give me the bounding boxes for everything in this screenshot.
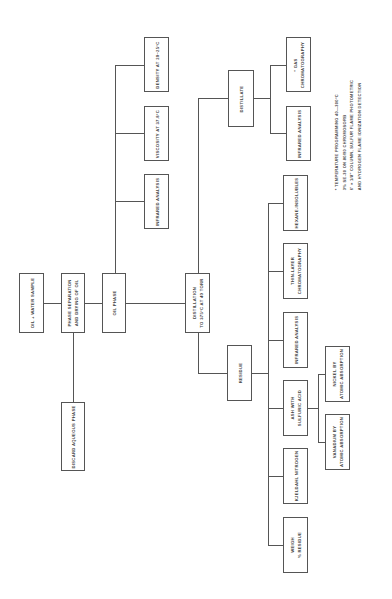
connector <box>115 201 144 202</box>
node-label: * GAS <box>292 41 299 87</box>
node-label: AND DRYING OF OIL <box>73 279 80 326</box>
footnote-line: AND HYDROGEN FLAME IONIZATION DETECTION <box>356 80 364 190</box>
connector <box>85 303 102 304</box>
node-label: NICKEL BY <box>331 349 338 399</box>
node-label: DENSITY AT 20–25°C <box>153 41 160 88</box>
connector <box>268 408 283 409</box>
footnote-line: 3% SE-30 ON 80/90 CHROMOSORB <box>340 80 348 190</box>
connector <box>268 203 283 204</box>
connector <box>268 203 269 545</box>
node-label: PHASE SEPARATION <box>66 279 73 326</box>
node-residue: RESIDUE <box>227 345 252 401</box>
node-label: ATOMIC ABSORPTION <box>338 349 345 399</box>
node-label: INFRARED ANALYSIS <box>153 177 160 226</box>
connector <box>73 333 74 402</box>
connector <box>198 98 228 99</box>
node-label: DISTILLATION <box>191 278 198 327</box>
node-label: RESIDUE <box>236 363 243 384</box>
node-kjeldahl-nitrogen: KJELDAHL NITROGEN <box>283 448 308 504</box>
connector <box>318 374 325 375</box>
node-label: ASH WITH <box>289 390 296 426</box>
node-ash-sulfuric-acid: ASH WITHSULFURIC ACID <box>283 380 308 436</box>
connector <box>268 271 283 272</box>
node-label: OIL PHASE <box>111 290 118 315</box>
connector <box>270 133 286 134</box>
connector <box>318 442 325 443</box>
node-distillate: DISTILLATE <box>228 70 254 127</box>
connector <box>270 65 286 66</box>
connector <box>308 408 318 409</box>
node-label: DISCARD AQUEOUS PHASE <box>70 405 77 468</box>
connector <box>115 65 144 66</box>
node-distillate-infrared-analysis: INFRARED ANALYSIS <box>286 106 311 161</box>
connector <box>268 476 283 477</box>
node-gas-chromatography: * GASCHROMATOGRAPHY <box>286 37 311 92</box>
node-viscosity: VISCOSITY AT 37.8°C <box>144 106 169 161</box>
node-residue-infrared-analysis: INFRARED ANALYSIS <box>283 312 308 368</box>
connector <box>198 333 199 373</box>
connector <box>268 545 283 546</box>
connector <box>318 374 319 442</box>
footnote: * TEMPERATURE PROGRAMMING 40—300°C 3% SE… <box>333 80 363 190</box>
node-label: KJELDAHL NITROGEN <box>292 451 299 502</box>
node-label: OIL + WATER SAMPLE <box>28 278 35 329</box>
connector <box>115 133 144 134</box>
node-density: DENSITY AT 20–25°C <box>144 37 169 92</box>
node-label: CHROMATOGRAPHY <box>299 41 306 87</box>
connector <box>198 373 227 374</box>
node-distillation: DISTILLATIONTO 375°C AT 40 TORR <box>185 273 210 333</box>
node-oil-phase: OIL PHASE <box>102 273 126 333</box>
node-label: THIN-LAYER <box>289 248 296 294</box>
node-label: DISTILLATE <box>238 85 245 112</box>
node-hexane-insolubles: HEXANE-INSOLUBLES <box>283 175 308 231</box>
node-label: HEXANE-INSOLUBLES <box>292 178 299 229</box>
node-thin-layer-chromatography: THIN-LAYERCHROMATOGRAPHY <box>283 243 308 299</box>
node-oil-water-sample: OIL + WATER SAMPLE <box>19 273 44 333</box>
node-label: CHROMATOGRAPHY <box>296 248 303 294</box>
node-label: INFRARED ANALYSIS <box>292 316 299 365</box>
node-vanadium-aa: VANADIUM BYATOMIC ABSORPTION <box>325 414 350 470</box>
connector <box>198 98 199 273</box>
node-label: VANADIUM BY <box>331 417 338 467</box>
node-label: % RESIDUE <box>296 532 303 558</box>
node-label: VISCOSITY AT 37.8°C <box>153 109 160 157</box>
connector <box>254 98 270 99</box>
connector <box>115 65 116 273</box>
node-discard-aqueous-phase: DISCARD AQUEOUS PHASE <box>61 402 85 471</box>
node-phase-separation: PHASE SEPARATIONAND DRYING OF OIL <box>61 273 85 333</box>
connector <box>268 340 283 341</box>
footnote-line: * TEMPERATURE PROGRAMMING 40—300°C <box>333 80 341 190</box>
connector <box>126 303 185 304</box>
node-oil-infrared-analysis: INFRARED ANALYSIS <box>144 174 169 229</box>
connector <box>44 303 61 304</box>
footnote-line: 6' × 1/8" COLUMN, SULFUR FLAME PHOTOMETR… <box>348 80 356 190</box>
node-label: TO 375°C AT 40 TORR <box>198 278 205 327</box>
connector <box>252 373 268 374</box>
node-label: WEIGH <box>289 532 296 558</box>
node-label: SULFURIC ACID <box>296 390 303 426</box>
node-label: ATOMIC ABSORPTION <box>338 417 345 467</box>
node-weigh-residue: WEIGH% RESIDUE <box>283 517 308 573</box>
node-nickel-aa: NICKEL BYATOMIC ABSORPTION <box>325 346 350 402</box>
node-label: INFRARED ANALYSIS <box>295 109 302 158</box>
connector <box>270 65 271 133</box>
